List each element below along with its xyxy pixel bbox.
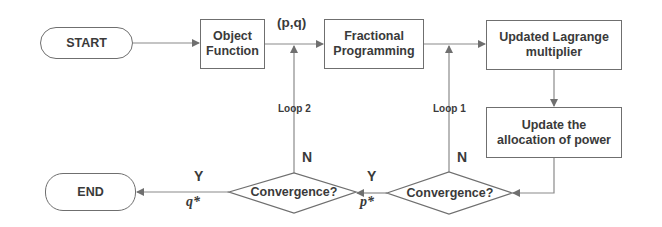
pq-label: (p,q) xyxy=(277,15,306,30)
update-power-node: Update the allocation of power xyxy=(486,107,622,158)
y-inner-label: Y xyxy=(367,168,376,184)
updated-lagrange-label: Updated Lagrange multiplier xyxy=(493,30,615,60)
y-outer-label: Y xyxy=(194,168,203,184)
fractional-programming-label: Fractional Programming xyxy=(329,29,419,59)
n-inner-label: N xyxy=(457,149,467,165)
updated-lagrange-node: Updated Lagrange multiplier xyxy=(486,20,622,70)
end-node: END xyxy=(45,173,136,211)
convergence-inner-label: Convergence? xyxy=(400,186,500,200)
q-star-label: q* xyxy=(186,194,200,210)
start-node: START xyxy=(40,27,133,59)
p-star-label: p* xyxy=(360,194,374,210)
object-function-label: Object Function xyxy=(204,29,261,59)
n-outer-label: N xyxy=(302,149,312,165)
object-function-node: Object Function xyxy=(200,19,265,69)
flowchart: START Object Function Fractional Program… xyxy=(0,0,662,227)
update-power-label: Update the allocation of power xyxy=(491,118,617,148)
end-label: END xyxy=(77,185,103,200)
convergence-outer-label: Convergence? xyxy=(244,185,344,199)
loop2-label: Loop 2 xyxy=(278,103,311,114)
loop1-label: Loop 1 xyxy=(433,103,466,114)
start-label: START xyxy=(66,36,107,51)
fractional-programming-node: Fractional Programming xyxy=(324,19,424,69)
